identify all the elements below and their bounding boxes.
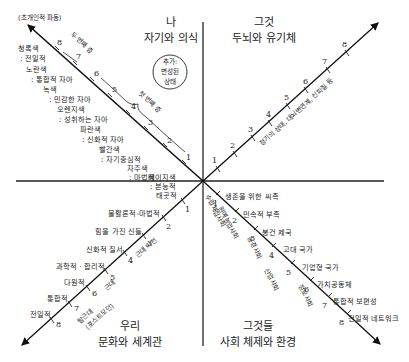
quadrant-lower-right-title: 그것들 bbox=[243, 320, 273, 333]
svg-text:: 성취하는 자아: : 성취하는 자아 bbox=[59, 115, 108, 124]
svg-text:8: 8 bbox=[57, 38, 62, 47]
svg-text:청록색: 청록색 bbox=[18, 44, 39, 53]
svg-text:: 전일적: : 전일적 bbox=[20, 54, 46, 63]
svg-text:6: 6 bbox=[92, 289, 97, 298]
second-tier-bracket bbox=[63, 52, 77, 62]
svg-text:4: 4 bbox=[131, 102, 136, 111]
svg-text:7: 7 bbox=[76, 52, 81, 61]
svg-text:자주색: 자주색 bbox=[127, 164, 148, 173]
transpersonal-wave-caption: (초개인적 파동) bbox=[18, 13, 61, 22]
svg-text:물활론적-마법적: 물활론적-마법적 bbox=[108, 209, 160, 218]
svg-text:: 민감한 자아: : 민감한 자아 bbox=[49, 95, 91, 104]
svg-text:봉건 제국: 봉건 제국 bbox=[262, 228, 292, 237]
svg-text:1: 1 bbox=[185, 205, 190, 214]
svg-text:오렌지색: 오렌지색 bbox=[57, 105, 85, 114]
svg-text:전일적: 전일적 bbox=[30, 310, 51, 319]
svg-text:태곳적: 태곳적 bbox=[156, 191, 177, 200]
four-quadrant-diagram: 나 자기와 의식 그것 두뇌와 유기체 우리 문화와 세계관 그것들 사회 체제… bbox=[0, 0, 409, 362]
svg-text:6: 6 bbox=[303, 77, 308, 86]
quadrant-lower-left-subtitle: 문화와 세계관 bbox=[98, 336, 162, 349]
svg-text:가치공동체: 가치공동체 bbox=[317, 280, 352, 289]
altered-states-note: 추가: 변성된 상태 bbox=[153, 55, 187, 89]
svg-text:8: 8 bbox=[56, 320, 61, 329]
svg-text:상태: 상태 bbox=[164, 77, 176, 86]
svg-text:6: 6 bbox=[94, 69, 99, 78]
svg-text:: 자기중심적: : 자기중심적 bbox=[101, 155, 141, 164]
svg-text:추가:: 추가: bbox=[163, 57, 177, 66]
svg-text:생존을 위한 씨족: 생존을 위한 씨족 bbox=[225, 192, 279, 201]
svg-text:정보사회: 정보사회 bbox=[296, 283, 315, 308]
svg-text:과학적 · 합리적: 과학적 · 합리적 bbox=[56, 262, 105, 271]
svg-text:8: 8 bbox=[342, 40, 347, 49]
svg-text:변성된: 변성된 bbox=[161, 67, 179, 76]
svg-text:4: 4 bbox=[269, 251, 274, 260]
svg-text:5: 5 bbox=[286, 268, 291, 277]
svg-text:빨간색: 빨간색 bbox=[99, 145, 120, 154]
first-tier-label: 첫 번째 층 bbox=[137, 89, 164, 115]
svg-text:4: 4 bbox=[128, 256, 133, 265]
svg-text:다원적: 다원적 bbox=[64, 278, 85, 287]
svg-text:고대 국가: 고대 국가 bbox=[283, 245, 313, 254]
quadrant-lower-right-subtitle: 사회 체제와 환경 bbox=[220, 336, 297, 349]
svg-text:8: 8 bbox=[339, 318, 344, 327]
upper-right-tick-numbers: 1 2 3 4 5 6 7 8 bbox=[212, 40, 347, 165]
svg-text:베이지색: 베이지색 bbox=[148, 173, 176, 182]
quadrant-upper-left-subtitle: 자기와 의식 bbox=[144, 32, 198, 45]
lower-left-level-labels: 태곳적 물활론적-마법적 힘을 가진 신들 신화적 질서 과학적 · 합리적 다… bbox=[30, 191, 177, 319]
svg-text:2: 2 bbox=[230, 141, 235, 150]
upper-right-arrow bbox=[203, 23, 378, 181]
svg-text:통합적: 통합적 bbox=[47, 294, 68, 303]
svg-text:전일적 네트워크: 전일적 네트워크 bbox=[348, 314, 399, 323]
svg-text:2: 2 bbox=[166, 222, 171, 231]
second-tier-label: 두 번째 층 bbox=[69, 30, 96, 56]
modern-annotation: 근대 bbox=[103, 279, 117, 293]
svg-text:5: 5 bbox=[112, 85, 117, 94]
svg-text:: 본능적: : 본능적 bbox=[150, 182, 176, 191]
svg-text:4: 4 bbox=[266, 110, 271, 119]
svg-text:기업형 국가: 기업형 국가 bbox=[302, 263, 339, 272]
quadrant-upper-left-title: 나 bbox=[166, 16, 176, 29]
upper-right-ticks bbox=[216, 50, 349, 172]
svg-text:5: 5 bbox=[284, 93, 289, 102]
quadrant-upper-right-title: 그것 bbox=[254, 16, 274, 29]
svg-text:녹색: 녹색 bbox=[43, 85, 57, 94]
svg-text:농경사회: 농경사회 bbox=[245, 235, 264, 260]
svg-text:7: 7 bbox=[322, 301, 327, 310]
svg-text:파란색: 파란색 bbox=[80, 125, 101, 134]
quadrant-upper-right-subtitle: 두뇌와 유기체 bbox=[232, 32, 296, 45]
svg-text:7: 7 bbox=[74, 304, 79, 313]
svg-text:신화적 질서: 신화적 질서 bbox=[86, 245, 123, 254]
svg-text:: 신화적 자아: : 신화적 자아 bbox=[82, 135, 124, 144]
svg-text:민속적 부족: 민속적 부족 bbox=[243, 210, 280, 219]
svg-text:산업사회: 산업사회 bbox=[262, 267, 281, 292]
svg-text:3: 3 bbox=[248, 125, 253, 134]
lower-left-arrow bbox=[22, 181, 203, 345]
svg-text:통합적 보편성: 통합적 보편성 bbox=[333, 297, 377, 306]
svg-text:7: 7 bbox=[322, 57, 327, 66]
quadrant-lower-left-title: 우리 bbox=[120, 320, 140, 333]
svg-text:1: 1 bbox=[212, 156, 217, 165]
svg-text:힘을 가진 신들: 힘을 가진 신들 bbox=[95, 227, 142, 236]
svg-text:: 통합적 자아: : 통합적 자아 bbox=[31, 75, 73, 84]
svg-text:1: 1 bbox=[186, 153, 191, 162]
svg-text:노란색: 노란색 bbox=[26, 65, 47, 74]
